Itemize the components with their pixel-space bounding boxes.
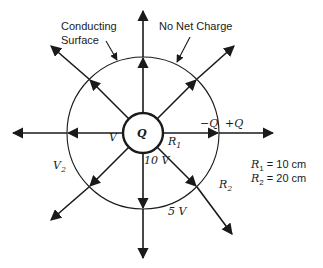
field-diagram: Conducting Surface No Net Charge Q V R1 … (0, 0, 323, 268)
r1-label: R1 (167, 135, 181, 150)
positive-charge-label: +Q (225, 117, 243, 130)
legend-r1: R1 = 10 cm (250, 158, 306, 173)
v2-label: V2 (53, 159, 66, 174)
conducting-surface-label-line1: Conducting (61, 20, 117, 32)
label-pointers (106, 37, 190, 62)
inner-voltage-label: 10 V (144, 154, 170, 167)
inner-potential-label: V (109, 131, 118, 144)
negative-charge-label: −Q (200, 117, 218, 130)
conducting-surface-label-line2: Surface (61, 34, 99, 46)
inner-charge-label: Q (137, 127, 147, 140)
legend-r2: R2 = 20 cm (250, 172, 306, 187)
outer-voltage-label: 5 V (168, 205, 187, 218)
r2-label: R2 (218, 178, 232, 193)
no-net-charge-label: No Net Charge (159, 20, 232, 32)
